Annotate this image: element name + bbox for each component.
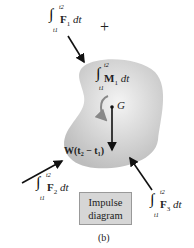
box-line-1: Impulse	[80, 196, 131, 209]
lower-limit: t1	[99, 85, 104, 91]
upper-limit: t2	[104, 62, 109, 68]
force-f2-arrow	[22, 161, 62, 183]
integral-sign: ∫	[96, 65, 100, 82]
f1-dt: dt	[70, 13, 81, 25]
impulse-diagram-box: Impulse diagram	[79, 192, 132, 225]
force-f1-arrow	[68, 36, 84, 62]
f2-dt: dt	[57, 181, 68, 193]
f3-dt: dt	[170, 198, 181, 210]
integral-sign: ∫	[150, 191, 154, 208]
m1-dt: dt	[118, 72, 129, 84]
f3-symbol: F	[160, 198, 167, 210]
upper-limit: t2	[46, 172, 51, 178]
label-weight: W(t₂ − t₁)	[64, 145, 104, 156]
force-f3-arrow	[130, 158, 152, 190]
lower-limit: t1	[40, 195, 45, 201]
lower-limit: t1	[154, 212, 159, 218]
integral-sign: ∫	[49, 6, 53, 23]
box-line-2: diagram	[80, 209, 131, 222]
upper-limit: t2	[59, 4, 64, 10]
f2-symbol: F	[47, 181, 54, 193]
m1-symbol: M	[104, 72, 114, 84]
plus-sign: +	[100, 18, 109, 36]
figure-caption: (b)	[98, 232, 110, 243]
integral-sign: ∫	[36, 174, 40, 191]
lower-limit: t1	[53, 27, 58, 33]
f1-symbol: F	[60, 13, 67, 25]
label-g: G	[117, 99, 125, 111]
upper-limit: t2	[160, 189, 165, 195]
